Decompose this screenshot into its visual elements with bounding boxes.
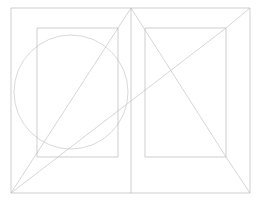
page-construction-diagram [0, 0, 261, 202]
diagram-canvas [0, 0, 261, 202]
